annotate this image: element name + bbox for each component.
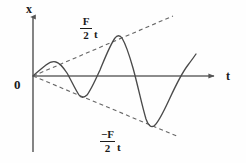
lower-envelope-label: −F 2 t [100,129,121,154]
lower-envelope-variable: t [117,141,121,154]
oscillation-curve [33,36,196,127]
upper-envelope-fraction: F 2 [80,16,92,41]
lower-envelope-numerator: −F [100,129,115,141]
lower-envelope-fraction: −F 2 [100,129,115,154]
upper-envelope-line [33,16,173,76]
upper-envelope-numerator: F [82,16,91,28]
y-axis-label: x [26,3,32,15]
figure-canvas: x 0 t F 2 t −F 2 t [0,0,246,163]
upper-envelope-denominator: 2 [82,29,90,41]
upper-envelope-variable: t [94,28,98,41]
upper-envelope-label: F 2 t [80,16,98,41]
oscillator-plot [0,0,246,163]
lower-envelope-denominator: 2 [104,142,112,154]
origin-label: 0 [14,78,21,91]
x-axis-label: t [226,70,230,82]
